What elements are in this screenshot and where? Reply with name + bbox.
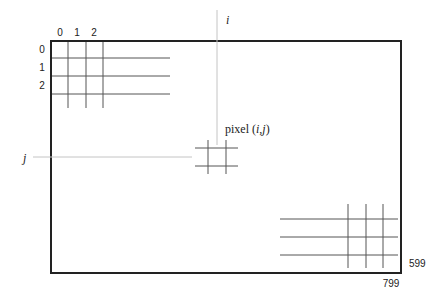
pixel-ij-grid [195, 140, 238, 174]
row-label-2: 2 [39, 80, 45, 91]
bottom-right-pixel-grid [280, 204, 398, 268]
column-label-0: 0 [57, 27, 63, 38]
i-axis-label: i [226, 13, 229, 27]
max-row-label: 599 [409, 258, 426, 269]
pixel-label-prefix: pixel ( [225, 122, 256, 136]
j-axis-label: j [21, 151, 27, 165]
pixel-ij-label: pixel (i,j) [225, 122, 270, 136]
row-label-1: 1 [39, 62, 45, 73]
column-label-1: 1 [74, 27, 80, 38]
pixel-grid-diagram: 0 1 2 0 1 2 i j pixel (i,j) 599 799 [0, 0, 442, 298]
pixel-label-suffix: ) [266, 122, 270, 136]
top-left-pixel-grid [52, 42, 170, 108]
max-column-label: 799 [383, 278, 400, 289]
column-label-2: 2 [91, 27, 97, 38]
row-label-0: 0 [39, 44, 45, 55]
